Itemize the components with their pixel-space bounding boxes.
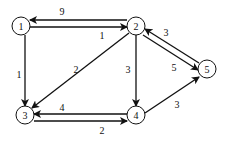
edge-2-to-5 [143,35,198,70]
edge-weight-1-to-2: 1 [100,30,105,41]
node-label: 4 [134,110,139,121]
node-4: 4 [127,106,145,124]
edge-weight-4-to-5: 3 [175,99,180,110]
node-1: 1 [12,17,30,35]
node-2: 2 [127,17,145,35]
edge-weight-4-to-3: 4 [60,102,65,113]
node-label: 2 [134,21,139,32]
edge-4-to-5 [145,77,199,113]
node-label: 1 [19,21,24,32]
edge-weight-2-to-3: 2 [74,64,79,75]
edge-weight-3-to-4: 2 [100,125,105,136]
edge-labels-group: 9112335342 [17,6,180,136]
edge-5-to-2 [145,29,199,63]
nodes-group: 12345 [12,17,216,124]
node-3: 3 [16,106,34,124]
edge-weight-1-to-3: 1 [17,69,22,80]
edge-weight-2-to-1: 9 [60,6,65,17]
edge-weight-2-to-4: 3 [126,64,131,75]
node-label: 5 [205,64,210,75]
edge-weight-2-to-5: 5 [172,62,177,73]
edge-weight-5-to-2: 3 [164,27,169,38]
node-label: 3 [23,110,28,121]
node-5: 5 [198,60,216,78]
graph-diagram: 9112335342 12345 [0,0,228,143]
edge-2-to-3 [32,33,129,108]
